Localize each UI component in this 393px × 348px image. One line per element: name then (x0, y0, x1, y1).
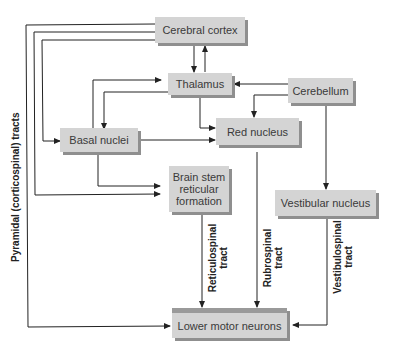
node-label: Cerebellum (292, 85, 348, 97)
node-label: Vestibular nucleus (281, 197, 370, 209)
node-label-line2: reticular (179, 183, 218, 195)
node-red-nucleus: Red nucleus (216, 118, 299, 145)
node-label-line1: Brain stem (173, 171, 226, 183)
node-cerebellum: Cerebellum (288, 78, 353, 103)
node-brain-stem-reticular-formation: Brain stem reticular formation (169, 166, 229, 212)
label-pyramidal-tracts: Pyramidal (corticospinal) tracts (10, 113, 21, 263)
node-basal-nuclei: Basal nuclei (60, 128, 138, 152)
node-label: Basal nuclei (69, 134, 128, 146)
label-rubrospinal-tract: Rubrospinal tract (262, 223, 284, 293)
node-label: Thalamus (176, 78, 224, 90)
node-thalamus: Thalamus (168, 73, 232, 95)
node-lower-motor-neurons: Lower motor neurons (172, 308, 287, 338)
node-label: Lower motor neurons (178, 320, 282, 332)
node-label-line3: formation (176, 195, 222, 207)
node-label: Cerebral cortex (162, 24, 237, 36)
node-label: Red nucleus (227, 126, 288, 138)
label-reticulospinal-tract: Reticulospinal tract (207, 218, 229, 298)
node-vestibular-nucleus: Vestibular nucleus (275, 190, 376, 216)
node-cerebral-cortex: Cerebral cortex (155, 17, 245, 43)
label-vestibulospinal-tract: Vestibulospinal tract (332, 217, 354, 297)
